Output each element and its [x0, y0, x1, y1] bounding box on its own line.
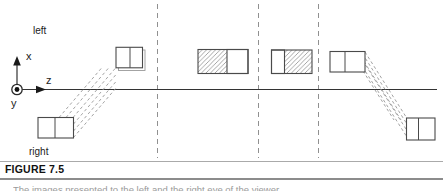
caption-divider-rule — [0, 178, 443, 180]
projection-dash-line — [366, 65, 409, 133]
center-right-box-plain-cell — [272, 50, 285, 74]
projection-dash-line — [365, 52, 408, 120]
projection-dash-line — [366, 59, 409, 127]
center-left-box — [198, 50, 248, 74]
right-region-label: right — [29, 146, 49, 157]
figure-caption-text: The images presented to the left and the… — [13, 184, 433, 191]
depth-plane-dashed-lines — [158, 4, 319, 158]
lower-right-box — [407, 118, 436, 140]
z-axis-arrowhead — [36, 86, 46, 93]
projection-dash-line — [66, 68, 109, 118]
center-right-box-hatched-cell — [285, 50, 313, 74]
center-right-box — [272, 50, 313, 74]
diagram-canvas: x z y left right — [0, 0, 443, 161]
figure-7-5-page: x z y left right — [0, 0, 443, 191]
projection-dash-line — [74, 88, 117, 138]
figure-caption-label: FIGURE 7.5 — [5, 163, 64, 175]
y-axis-origin-marker — [12, 84, 22, 94]
x-axis-arrow — [13, 56, 21, 84]
upper-right-box — [330, 52, 365, 73]
center-left-box-plain-cell — [227, 50, 248, 74]
x-axis-label: x — [26, 50, 32, 62]
y-axis-label: y — [11, 97, 17, 109]
projection-dash-line — [74, 74, 117, 124]
z-axis-label: z — [46, 74, 52, 86]
left-region-label: left — [33, 25, 47, 36]
lower-left-box — [38, 118, 74, 139]
figure-top-rule — [0, 161, 443, 162]
projection-dash-line — [73, 68, 116, 118]
projection-dash-line — [366, 72, 409, 140]
upper-left-box — [116, 47, 145, 70]
projection-dash-line — [74, 81, 117, 131]
projection-dash-line — [59, 68, 102, 118]
center-left-box-hatched-cell — [198, 50, 227, 74]
